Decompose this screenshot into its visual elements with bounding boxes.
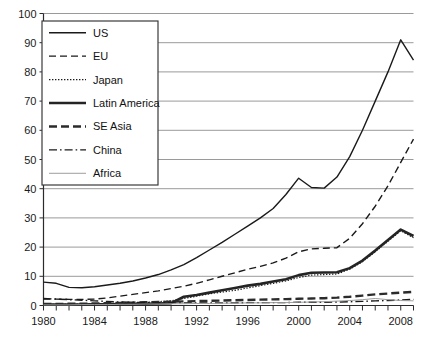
ytick-label-80: 80 (24, 66, 36, 78)
legend-label-china: China (93, 144, 123, 156)
xtick-label-2008: 2008 (388, 315, 412, 327)
ytick-label-30: 30 (24, 212, 36, 224)
ytick-label-50: 50 (24, 154, 36, 166)
series-line-japan (44, 231, 414, 305)
legend-label-eu: EU (93, 50, 108, 62)
ytick-label-100: 100 (18, 8, 36, 20)
xtick-label-2004: 2004 (337, 315, 361, 327)
ytick-label-60: 60 (24, 124, 36, 136)
ytick-label-10: 10 (24, 270, 36, 282)
line-chart: 0102030405060708090100 19801984198819921… (0, 0, 426, 341)
xtick-labels-group: 19801984198819921996200020042008 (31, 315, 413, 327)
xtick-label-1996: 1996 (235, 315, 259, 327)
ytick-labels-group: 0102030405060708090100 (18, 8, 43, 312)
legend-label-latin-america: Latin America (93, 97, 161, 109)
legend: USEUJapanLatin AmericaSE AsiaChinaAfrica (42, 21, 161, 185)
series-line-latin-america (44, 230, 414, 305)
ytick-label-0: 0 (30, 300, 36, 312)
ytick-label-70: 70 (24, 95, 36, 107)
xtick-label-1980: 1980 (31, 315, 55, 327)
ytick-label-90: 90 (24, 37, 36, 49)
xtick-label-2000: 2000 (286, 315, 310, 327)
legend-label-africa: Africa (93, 167, 122, 179)
chart-canvas: 0102030405060708090100 19801984198819921… (0, 0, 426, 341)
xtick-label-1992: 1992 (184, 315, 208, 327)
legend-label-us: US (93, 27, 108, 39)
xtick-label-1988: 1988 (133, 315, 157, 327)
ytick-label-40: 40 (24, 183, 36, 195)
xtick-marks-group (44, 306, 414, 311)
legend-label-se-asia: SE Asia (93, 120, 132, 132)
ytick-label-20: 20 (24, 241, 36, 253)
xtick-label-1984: 1984 (82, 315, 106, 327)
legend-label-japan: Japan (93, 74, 123, 86)
